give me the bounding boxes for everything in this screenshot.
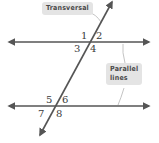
parallel-lines-callout: Parallel lines (106, 63, 142, 85)
parallel-label-line1: Parallel (110, 65, 138, 74)
angle-label-4: 4 (90, 44, 96, 54)
transversal-callout: Transversal (42, 2, 93, 15)
transversal-line (40, 2, 112, 135)
angle-label-5: 5 (46, 95, 52, 105)
angle-label-8: 8 (56, 109, 62, 119)
angle-label-1: 1 (81, 31, 87, 41)
parallel-label-line2: lines (110, 74, 138, 83)
parallel-leader-top (123, 44, 125, 63)
angle-label-2: 2 (96, 31, 102, 41)
transversal-label: Transversal (46, 4, 89, 12)
angle-label-3: 3 (74, 44, 80, 54)
angle-label-7: 7 (38, 109, 44, 119)
angle-label-6: 6 (62, 95, 68, 105)
parallel-leader-bottom (118, 88, 124, 105)
parallel-lines-transversal-diagram: Transversal Parallel lines 1 2 3 4 5 6 7… (0, 0, 159, 143)
